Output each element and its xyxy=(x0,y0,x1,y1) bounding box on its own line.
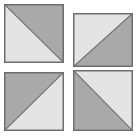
tile-bottom-left xyxy=(4,72,64,131)
tile-top-right xyxy=(73,13,133,67)
tile-top-left xyxy=(4,4,64,63)
tile-bottom-right xyxy=(73,70,133,131)
